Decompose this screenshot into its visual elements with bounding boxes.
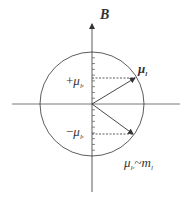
relation-label: μlz~ml xyxy=(124,156,153,172)
relation-rhs-subscript: l xyxy=(151,164,153,172)
minus-subsubscript: z xyxy=(82,134,84,139)
upper-moment-vector xyxy=(92,78,135,104)
axis-label-b: B xyxy=(100,8,109,22)
relation-rhs-symbol: m xyxy=(141,155,150,170)
axis-label-b-text: B xyxy=(100,7,109,22)
diagram-canvas xyxy=(0,0,190,200)
vector-label-mu-l: μl xyxy=(138,62,147,78)
plus-projection-label: +μlz xyxy=(66,74,84,90)
vector-subscript: l xyxy=(145,70,147,78)
plus-subsubscript: z xyxy=(82,83,84,88)
lower-moment-vector xyxy=(92,104,133,134)
minus-projection-label: −μlz xyxy=(66,125,84,141)
